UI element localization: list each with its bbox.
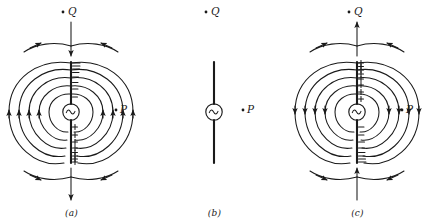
point-q-label: Q: [354, 5, 363, 18]
charge-marks-lower: [73, 125, 78, 165]
point-q-dot: [348, 11, 351, 14]
panel-a-label: (a): [0, 208, 143, 218]
field-line-left-3: [315, 78, 357, 149]
ac-source-wave: [209, 110, 218, 114]
point-p-dot: [242, 109, 245, 112]
charge-marks-upper: [359, 61, 364, 102]
antenna-field-figure: Q P (a) Q P (b): [0, 0, 429, 221]
field-line-left-5: [335, 94, 357, 132]
point-p-dot: [401, 109, 404, 112]
panel-b-label: (b): [143, 208, 286, 218]
panel-b: Q P (b): [143, 0, 286, 221]
charge-marks-upper: [73, 63, 81, 97]
point-q-label: Q: [68, 5, 77, 18]
ac-source-wave: [66, 110, 75, 114]
panel-c: Q P (c): [286, 0, 429, 221]
panel-a: Q P (a): [0, 0, 143, 221]
panel-a-diagram: Q P: [0, 0, 143, 221]
field-line-right-3: [357, 78, 399, 149]
point-p-dot: [115, 109, 118, 112]
point-p-label: P: [405, 103, 414, 115]
point-p-label: P: [246, 103, 255, 115]
point-p-label: P: [119, 103, 128, 115]
panel-c-diagram: Q P: [286, 0, 429, 221]
point-q-dot: [62, 11, 65, 14]
point-q-label: Q: [211, 5, 220, 18]
point-q-dot: [205, 11, 208, 14]
panel-b-diagram: Q P: [143, 0, 286, 221]
field-line-right-3: [71, 78, 113, 149]
field-line-left-3: [29, 78, 71, 149]
ac-source-wave: [352, 110, 361, 114]
panel-c-label: (c): [286, 208, 429, 218]
field-line-left-5: [49, 94, 71, 132]
